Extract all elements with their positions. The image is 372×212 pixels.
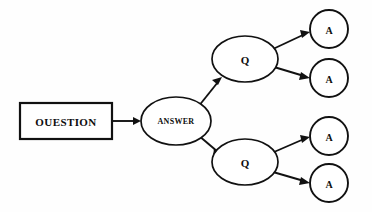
answer-4-label: A [325,179,333,190]
arrowhead-question-bottom-to-answer-3 [300,135,310,143]
question-root-label: OUESTION [35,116,96,128]
edge-line-question-bottom-to-answer-3 [274,139,304,152]
node-answer-4[interactable]: A [310,164,348,202]
node-answer-1[interactable]: A [310,10,348,48]
answer-1-label: A [325,25,333,36]
answer-3-label: A [325,132,333,143]
arrowhead-question-bottom-to-answer-4 [299,177,310,185]
arrowhead-answer-to-question-top [212,77,222,85]
answer-root-label: ANSWER [158,117,195,126]
node-question-root[interactable]: OUESTION [20,103,112,139]
edge-question-bottom-to-answer-3 [274,135,310,152]
edge-answer-to-question-top [198,77,222,107]
arrowhead-question-top-to-answer-2 [299,72,310,80]
edge-question-bottom-to-answer-4 [273,172,310,185]
diagram-svg: OUESTION ANSWER Q Q A A A [0,0,372,212]
edge-question-top-to-answer-2 [274,67,310,80]
arrowhead-question-to-answer [133,117,141,125]
question-bottom-label: Q [241,157,250,169]
edge-line-question-top-to-answer-1 [273,34,305,49]
edge-line-question-top-to-answer-2 [274,67,304,76]
edge-question-to-answer [112,117,141,125]
node-question-top[interactable]: Q [212,36,278,82]
node-answer-root[interactable]: ANSWER [141,97,211,145]
answer-2-label: A [325,74,333,85]
edge-question-top-to-answer-1 [273,30,310,49]
question-top-label: Q [241,54,250,66]
node-answer-3[interactable]: A [310,117,348,155]
node-question-bottom[interactable]: Q [212,139,278,185]
node-answer-2[interactable]: A [310,59,348,97]
diagram-canvas: OUESTION ANSWER Q Q A A A [0,0,372,212]
arrowhead-question-top-to-answer-1 [300,30,310,38]
edge-line-question-bottom-to-answer-4 [273,172,304,181]
